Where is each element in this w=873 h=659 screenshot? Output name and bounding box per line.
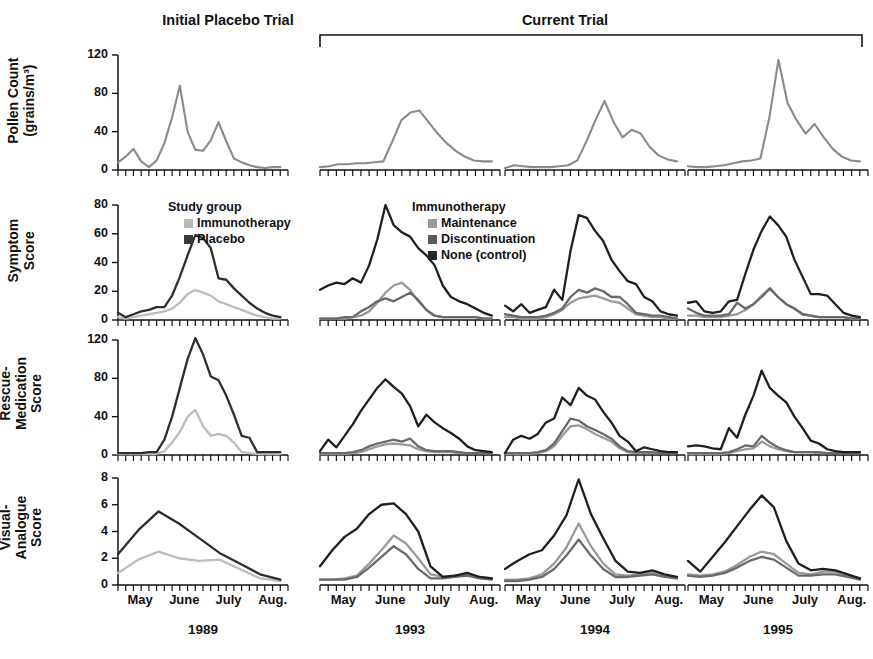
y-tick-label: 40 xyxy=(62,124,108,138)
legend-title-2: Immunotherapy xyxy=(412,200,506,214)
series-line-discontinuation xyxy=(505,288,677,318)
legend-swatch-placebo xyxy=(184,235,193,244)
series-line-pollen-count xyxy=(688,60,860,167)
series-line-placebo xyxy=(118,511,280,579)
series-line-none-control- xyxy=(688,495,860,578)
series-line-none-control- xyxy=(505,215,677,316)
series-line-none-control- xyxy=(320,503,492,578)
series-line-maintenance xyxy=(320,283,492,319)
figure-canvas: Initial Placebo TrialCurrent TrialPollen… xyxy=(0,0,873,659)
y-tick-label: 80 xyxy=(62,370,108,384)
series-line-discontinuation xyxy=(320,293,492,319)
legend-swatch-discontinuation xyxy=(428,235,437,244)
y-tick-label: 120 xyxy=(62,47,108,61)
series-line-placebo xyxy=(118,338,280,453)
x-tick-label: May xyxy=(317,592,369,607)
x-tick-label: May xyxy=(685,592,737,607)
x-tick-label: June xyxy=(364,592,416,607)
y-tick-label: 20 xyxy=(62,283,108,297)
series-line-pollen-count xyxy=(505,101,677,168)
year-label-1989: 1989 xyxy=(163,622,243,637)
series-line-immunotherapy xyxy=(118,410,280,454)
y-tick-label: 0 xyxy=(62,312,108,326)
x-tick-label: Aug. xyxy=(247,592,299,607)
y-tick-label: 80 xyxy=(62,85,108,99)
y-tick-label: 40 xyxy=(62,255,108,269)
series-line-discontinuation xyxy=(688,557,860,580)
y-tick-label: 40 xyxy=(62,409,108,423)
series-line-none-control- xyxy=(505,479,677,577)
legend-label-placebo: Placebo xyxy=(197,232,245,246)
year-label-1994: 1994 xyxy=(555,622,635,637)
y-tick-label: 0 xyxy=(62,577,108,591)
x-tick-label: July xyxy=(596,592,648,607)
series-line-none-control- xyxy=(688,217,860,318)
legend-label-none-control-: None (control) xyxy=(441,248,526,262)
y-tick-label: 0 xyxy=(62,162,108,176)
series-line-none-control- xyxy=(505,388,677,453)
year-label-1993: 1993 xyxy=(370,622,450,637)
x-tick-label: July xyxy=(779,592,831,607)
legend-swatch-maintenance xyxy=(428,219,437,228)
series-line-placebo xyxy=(118,235,280,317)
plot-lines xyxy=(0,0,873,659)
y-tick-label: 2 xyxy=(62,550,108,564)
x-tick-label: Aug. xyxy=(826,592,873,607)
series-line-none-control- xyxy=(688,371,860,452)
legend-title-1: Study group xyxy=(168,200,242,214)
x-tick-label: June xyxy=(549,592,601,607)
year-label-1995: 1995 xyxy=(738,622,818,637)
x-tick-label: May xyxy=(502,592,554,607)
series-line-pollen-count xyxy=(320,111,492,168)
y-tick-label: 6 xyxy=(62,497,108,511)
legend-swatch-none-control- xyxy=(428,251,437,260)
legend-label-discontinuation: Discontinuation xyxy=(441,232,535,246)
legend-label-immunotherapy: Immunotherapy xyxy=(197,216,291,230)
legend-label-maintenance: Maintenance xyxy=(441,216,517,230)
y-tick-label: 120 xyxy=(62,332,108,346)
series-line-discontinuation xyxy=(320,546,492,579)
y-tick-label: 4 xyxy=(62,524,108,538)
legend-swatch-immunotherapy xyxy=(184,219,193,228)
series-line-immunotherapy xyxy=(118,290,280,319)
y-tick-label: 60 xyxy=(62,226,108,240)
y-tick-label: 8 xyxy=(62,470,108,484)
x-tick-label: June xyxy=(732,592,784,607)
y-tick-label: 0 xyxy=(62,447,108,461)
series-line-immunotherapy xyxy=(118,552,280,581)
x-tick-label: July xyxy=(411,592,463,607)
y-tick-label: 80 xyxy=(62,197,108,211)
series-line-pollen-count xyxy=(118,86,280,168)
